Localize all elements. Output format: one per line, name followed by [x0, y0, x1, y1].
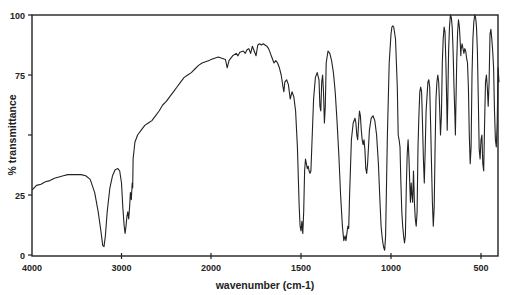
- ir-spectrum-chart: 02575100 40003000200015001000500 wavenum…: [0, 0, 506, 295]
- spectrum-line: [32, 15, 499, 250]
- plot-frame: [32, 15, 498, 256]
- x-tick-label: 4000: [22, 263, 42, 273]
- x-axis-label: wavenumber (cm-1): [215, 279, 315, 291]
- y-axis-label: % transmittance: [6, 94, 18, 175]
- x-tick-label: 1000: [381, 263, 401, 273]
- x-tick-label: 3000: [111, 263, 131, 273]
- y-tick-label: 0: [20, 251, 25, 261]
- y-tick-label: 100: [10, 11, 25, 21]
- y-tick-label: 25: [15, 191, 25, 201]
- x-tick-label: 1500: [291, 263, 311, 273]
- y-tick-label: 75: [15, 71, 25, 81]
- x-tick-label: 500: [473, 263, 488, 273]
- plot-border: [32, 15, 498, 256]
- x-tick-label: 2000: [201, 263, 221, 273]
